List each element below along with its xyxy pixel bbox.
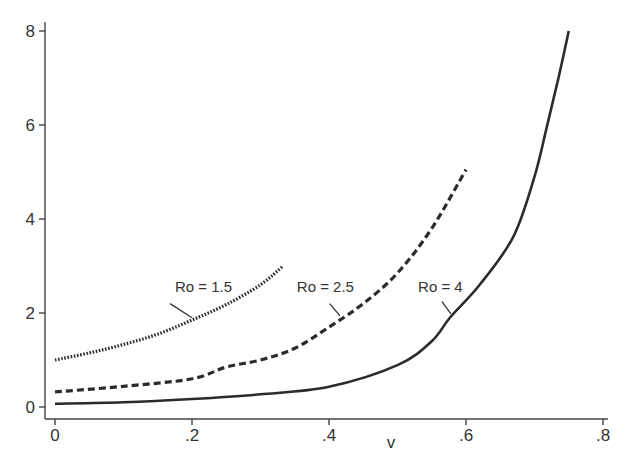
y-axis-ticks: 02468	[26, 22, 45, 417]
x-tick-label: .8	[596, 426, 610, 445]
y-tick-label: 4	[26, 210, 35, 229]
plot-area: 02468 0.2.4.6.8 Ro = 1.5Ro = 2.5Ro = 4 v	[26, 22, 611, 452]
x-axis-ticks: 0.2.4.6.8	[50, 419, 610, 445]
series-line-dotted	[55, 266, 283, 360]
x-tick-label: .4	[322, 426, 336, 445]
y-tick-label: 0	[26, 398, 35, 417]
label-leader-line	[170, 304, 192, 318]
curve-label: Ro = 1.5	[175, 278, 232, 295]
x-tick-label: .6	[459, 426, 473, 445]
x-tick-label: .2	[185, 426, 199, 445]
y-tick-label: 6	[26, 116, 35, 135]
x-axis-title: v	[387, 433, 396, 452]
chart: 02468 0.2.4.6.8 Ro = 1.5Ro = 2.5Ro = 4 v	[0, 0, 631, 464]
series-layer	[55, 31, 569, 404]
series-line-solid	[55, 31, 569, 404]
curve-label: Ro = 4	[418, 278, 463, 295]
y-tick-label: 2	[26, 304, 35, 323]
label-leader-line	[442, 302, 451, 314]
label-leader-line	[330, 304, 340, 316]
y-tick-label: 8	[26, 22, 35, 41]
series-line-dashed	[55, 170, 466, 392]
curve-label: Ro = 2.5	[297, 278, 354, 295]
x-tick-label: 0	[50, 426, 59, 445]
